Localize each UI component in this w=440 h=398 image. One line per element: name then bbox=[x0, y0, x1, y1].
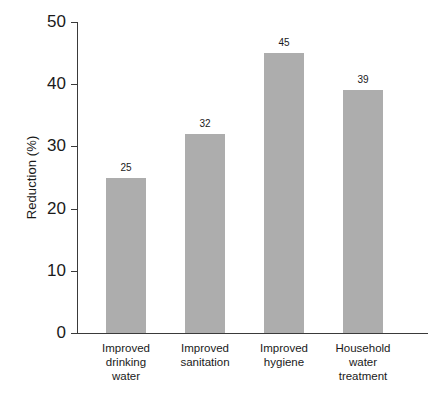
y-axis-tick-label-wrap: 0 bbox=[0, 324, 66, 341]
x-axis-category-label-line: water bbox=[80, 369, 172, 383]
y-axis-tick bbox=[71, 146, 77, 147]
y-axis-tick bbox=[71, 22, 77, 23]
bar-chart: Reduction (%) 01020304050 25Improveddrin… bbox=[0, 0, 440, 398]
x-axis-category-label: Householdwatertreatment bbox=[317, 341, 409, 383]
y-axis-tick bbox=[71, 209, 77, 210]
bar-value-label: 25 bbox=[86, 163, 166, 173]
bar-value-label: 45 bbox=[244, 38, 324, 48]
y-axis-tick-label-wrap: 10 bbox=[0, 262, 66, 279]
bar-value-label: 39 bbox=[323, 75, 403, 85]
y-axis-tick-label: 40 bbox=[47, 75, 66, 92]
y-axis-tick-label-wrap: 40 bbox=[0, 75, 66, 92]
bar bbox=[264, 53, 304, 333]
y-axis-tick-label: 10 bbox=[47, 262, 66, 279]
x-axis-category-label-line: water bbox=[317, 355, 409, 369]
y-axis-tick-label-wrap: 20 bbox=[0, 200, 66, 217]
y-axis-line bbox=[77, 22, 78, 334]
y-axis-tick bbox=[71, 271, 77, 272]
x-axis-category-label-line: treatment bbox=[317, 369, 409, 383]
bar bbox=[106, 178, 146, 334]
bar-value-label: 32 bbox=[165, 119, 245, 129]
y-axis-tick-label-wrap: 30 bbox=[0, 137, 66, 154]
y-axis-tick bbox=[71, 84, 77, 85]
x-axis-category-label-line: Household bbox=[317, 341, 409, 355]
y-axis-tick-label: 30 bbox=[47, 137, 66, 154]
x-axis-line bbox=[77, 333, 428, 334]
y-axis-tick bbox=[71, 333, 77, 334]
y-axis-tick-label: 50 bbox=[47, 13, 66, 30]
y-axis-tick-label: 0 bbox=[57, 324, 66, 341]
y-axis-tick-label-wrap: 50 bbox=[0, 13, 66, 30]
y-axis-tick-label: 20 bbox=[47, 200, 66, 217]
bar bbox=[343, 90, 383, 333]
bar bbox=[185, 134, 225, 333]
